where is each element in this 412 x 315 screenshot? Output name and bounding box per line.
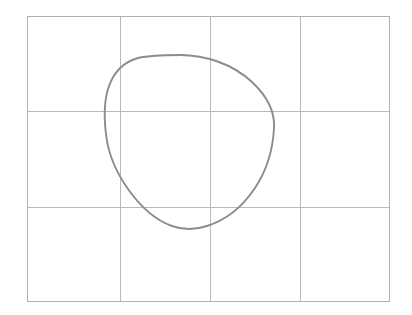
canvas-background — [0, 0, 412, 315]
figure-root — [0, 0, 412, 315]
diagram-canvas — [0, 0, 412, 315]
